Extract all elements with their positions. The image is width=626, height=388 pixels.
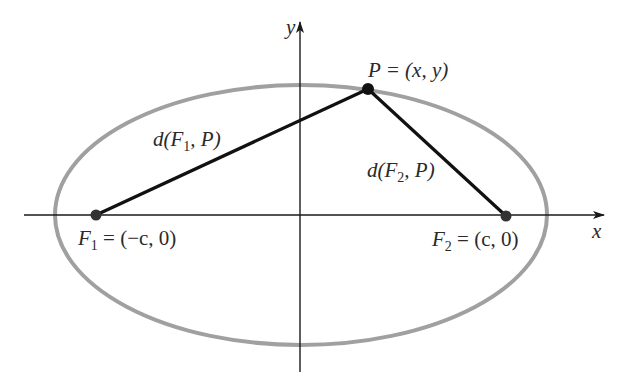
x-axis-label: x	[591, 219, 602, 243]
focus-f2-point	[501, 211, 512, 222]
y-axis-label: y	[284, 15, 296, 39]
focus-f1-point	[91, 210, 102, 221]
point-p	[362, 83, 374, 95]
focus-f2-label: F2 = (c, 0)	[431, 227, 518, 254]
diagram-canvas: y x P = (x, y) F1 = (−c, 0) F2 = (c, 0) …	[0, 0, 626, 388]
distance-f2-p-label: d(F2, P)	[367, 158, 435, 185]
ellipse-diagram: y x P = (x, y) F1 = (−c, 0) F2 = (c, 0) …	[0, 0, 626, 388]
distance-f1-p-label: d(F1, P)	[153, 127, 221, 154]
segment-f1-p	[96, 89, 368, 215]
point-p-label: P = (x, y)	[367, 58, 448, 82]
focus-f1-label: F1 = (−c, 0)	[77, 226, 176, 253]
